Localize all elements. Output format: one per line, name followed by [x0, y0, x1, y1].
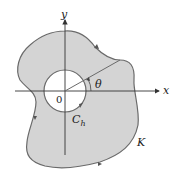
- k-label: K: [136, 136, 146, 149]
- origin-label: 0: [56, 94, 62, 105]
- x-axis-label: x: [163, 84, 170, 97]
- y-axis-label: y: [60, 8, 68, 21]
- diagram-canvas: y x 0 θ Ch K: [0, 0, 180, 182]
- theta-label: θ: [95, 78, 102, 91]
- c-h-subscript: h: [80, 119, 85, 128]
